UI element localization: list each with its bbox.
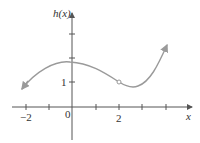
- x-axis-label: x: [185, 110, 191, 122]
- left-arrow-icon: [22, 81, 28, 89]
- x-tick-label-0: 0: [65, 108, 71, 120]
- h-curve: [22, 45, 167, 89]
- x-tick-label-2: 2: [116, 112, 122, 124]
- open-point: [117, 80, 121, 84]
- x-tick-label-minus2: −2: [20, 111, 32, 123]
- graph-canvas: h(x) x −2 0 2 1: [0, 0, 200, 143]
- y-tick-label-1: 1: [61, 76, 67, 88]
- y-axis-label: h(x): [53, 7, 71, 20]
